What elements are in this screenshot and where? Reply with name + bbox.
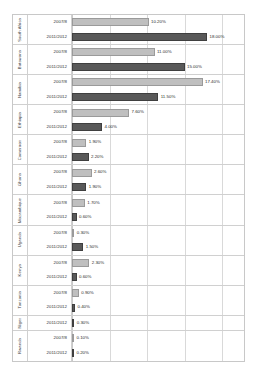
bar-kenya-2011-2012: [72, 273, 77, 281]
country-axis-cell: Uganda: [13, 226, 28, 255]
bar-uganda-2011-2012: [72, 243, 83, 251]
bar-group: Niger2011/20120.30%: [13, 316, 244, 331]
bar-row: 2011/20120.60%: [28, 210, 244, 225]
year-label: 2007/8: [28, 15, 72, 30]
bar-group: Cameroon2007/81.90%2011/20122.20%: [13, 135, 244, 165]
bar-row: 2007/80.30%: [28, 226, 244, 241]
bar-mozambique-2011-2012: [72, 213, 77, 221]
bar-value-label: 2.20%: [91, 155, 103, 159]
bar-value-label: 0.20%: [77, 351, 89, 355]
year-label: 2011/2012: [28, 210, 72, 225]
country-label: Cameroon: [18, 140, 22, 160]
bar-botswana-2007-8: [72, 48, 155, 56]
year-label: 2007/8: [28, 165, 72, 180]
year-label: 2011/2012: [28, 346, 72, 361]
bar-track: 1.70%: [72, 195, 244, 210]
bar-value-label: 0.30%: [77, 231, 89, 235]
bar-row: 2007/811.00%: [28, 45, 244, 60]
year-label: 2007/8: [28, 75, 72, 90]
bar-group: Rwanda2007/80.10%2011/20120.20%: [13, 331, 244, 361]
bar-row: 2011/201215.00%: [28, 60, 244, 75]
bar-track: 1.90%: [72, 135, 244, 150]
bar-ethiopia-2011-2012: [72, 123, 102, 131]
bar-tanzania-2007-8: [72, 289, 79, 297]
bar-ethiopia-2007-8: [72, 109, 129, 117]
bar-track: 0.10%: [72, 331, 244, 346]
bar-rows: 2007/81.90%2011/20122.20%: [28, 135, 244, 164]
country-label: Niger: [18, 318, 22, 329]
country-label: Uganda: [18, 232, 22, 247]
bar-track: 0.60%: [72, 270, 244, 285]
bar-rows: 2007/87.60%2011/20124.00%: [28, 105, 244, 134]
bar-row: 2011/20121.50%: [28, 240, 244, 255]
year-label: 2007/8: [28, 105, 72, 120]
bar-ghana-2011-2012: [72, 183, 86, 191]
bar-value-label: 1.50%: [86, 245, 98, 249]
country-axis-cell: Ethiopia: [13, 105, 28, 134]
bar-row: 2007/82.60%: [28, 165, 244, 180]
bar-botswana-2011-2012: [72, 63, 185, 71]
bar-rows: 2007/80.90%2011/20120.40%: [28, 286, 244, 315]
bar-rows: 2011/20120.30%: [28, 316, 244, 330]
country-label: Ethiopia: [18, 112, 22, 128]
bar-row: 2007/82.30%: [28, 256, 244, 271]
bar-kenya-2007-8: [72, 259, 89, 267]
year-label: 2007/8: [28, 331, 72, 346]
year-label: 2007/8: [28, 226, 72, 241]
year-label: 2011/2012: [28, 30, 72, 45]
country-label: Rwanda: [18, 338, 22, 354]
year-label: 2007/8: [28, 256, 72, 271]
bar-row: 2011/201211.50%: [28, 90, 244, 105]
year-label: 2007/8: [28, 135, 72, 150]
bar-rows: 2007/811.00%2011/201215.00%: [28, 45, 244, 74]
country-axis-cell: Cameroon: [13, 135, 28, 164]
bar-group: Ghana2007/82.60%2011/20121.90%: [13, 165, 244, 195]
bar-rwanda-2011-2012: [72, 349, 74, 357]
bar-row: 2007/81.70%: [28, 195, 244, 210]
bar-group: Tanzania2007/80.90%2011/20120.40%: [13, 286, 244, 316]
bar-value-label: 0.10%: [77, 336, 89, 340]
year-label: 2007/8: [28, 286, 72, 301]
plot-area: South Africa2007/810.20%2011/201218.00%B…: [12, 14, 245, 362]
bar-row: 2007/87.60%: [28, 105, 244, 120]
bar-namibia-2007-8: [72, 78, 203, 86]
bar-row: 2007/810.20%: [28, 15, 244, 30]
bar-track: 17.40%: [72, 75, 244, 90]
year-label: 2011/2012: [28, 150, 72, 165]
year-label: 2011/2012: [28, 300, 72, 315]
bar-track: 7.60%: [72, 105, 244, 120]
year-label: 2007/8: [28, 45, 72, 60]
bar-value-label: 18.00%: [210, 35, 225, 39]
year-label: 2011/2012: [28, 180, 72, 195]
country-label: Mozambique: [18, 198, 22, 223]
bar-track: 0.30%: [72, 226, 244, 241]
bar-group: Kenya2007/82.30%2011/20120.60%: [13, 256, 244, 286]
bar-value-label: 17.40%: [205, 80, 220, 84]
bar-value-label: 11.50%: [161, 95, 176, 99]
bar-group: Botswana2007/811.00%2011/201215.00%: [13, 45, 244, 75]
country-label: Tanzania: [18, 291, 22, 309]
bar-row: 2011/20124.00%: [28, 120, 244, 135]
bar-row: 2007/80.10%: [28, 331, 244, 346]
bar-cameroon-2011-2012: [72, 153, 89, 161]
bar-group: Uganda2007/80.30%2011/20121.50%: [13, 226, 244, 256]
bar-rows: 2007/82.60%2011/20121.90%: [28, 165, 244, 194]
bar-value-label: 2.60%: [94, 170, 106, 174]
bar-value-label: 7.60%: [132, 110, 144, 114]
country-label: Kenya: [18, 264, 22, 276]
bar-ghana-2007-8: [72, 169, 92, 177]
country-label: Ghana: [18, 173, 22, 186]
bar-group: Namibia2007/817.40%2011/201211.50%: [13, 75, 244, 105]
country-axis-cell: Kenya: [13, 256, 28, 285]
bar-value-label: 0.30%: [77, 321, 89, 325]
bar-value-label: 0.90%: [81, 291, 93, 295]
country-axis-cell: Mozambique: [13, 195, 28, 224]
bar-value-label: 0.40%: [78, 305, 90, 309]
bar-track: 2.20%: [72, 150, 244, 165]
bar-rows: 2007/82.30%2011/20120.60%: [28, 256, 244, 285]
bar-value-label: 11.00%: [157, 50, 172, 54]
year-label: 2011/2012: [28, 316, 72, 330]
country-axis-cell: South Africa: [13, 15, 28, 44]
bar-track: 0.30%: [72, 316, 244, 330]
country-axis-cell: Botswana: [13, 45, 28, 74]
